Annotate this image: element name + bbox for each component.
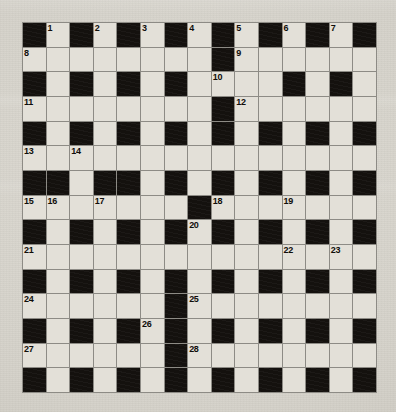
crossword-letter-cell[interactable]: 6 [282,23,306,48]
crossword-letter-cell[interactable] [329,96,353,121]
crossword-letter-cell[interactable] [93,220,117,245]
crossword-letter-cell[interactable] [353,72,377,97]
crossword-letter-cell[interactable]: 28 [188,343,212,368]
crossword-letter-cell[interactable] [329,220,353,245]
crossword-letter-cell[interactable] [306,96,330,121]
crossword-letter-cell[interactable] [188,96,212,121]
crossword-letter-cell[interactable] [46,220,70,245]
crossword-letter-cell[interactable] [258,146,282,171]
crossword-letter-cell[interactable] [329,146,353,171]
crossword-letter-cell[interactable] [188,269,212,294]
crossword-letter-cell[interactable] [282,220,306,245]
crossword-letter-cell[interactable] [93,47,117,72]
crossword-letter-cell[interactable]: 27 [23,343,47,368]
crossword-letter-cell[interactable] [164,96,188,121]
crossword-letter-cell[interactable]: 16 [46,195,70,220]
crossword-letter-cell[interactable] [140,170,164,195]
crossword-letter-cell[interactable]: 8 [23,47,47,72]
crossword-letter-cell[interactable] [117,47,141,72]
crossword-letter-cell[interactable]: 24 [23,294,47,319]
crossword-letter-cell[interactable] [70,244,94,269]
crossword-letter-cell[interactable]: 4 [188,23,212,48]
crossword-letter-cell[interactable] [353,47,377,72]
crossword-letter-cell[interactable] [70,47,94,72]
crossword-letter-cell[interactable] [282,47,306,72]
crossword-letter-cell[interactable] [282,318,306,343]
crossword-letter-cell[interactable] [164,195,188,220]
crossword-letter-cell[interactable] [140,368,164,393]
crossword-letter-cell[interactable] [140,294,164,319]
crossword-letter-cell[interactable] [46,343,70,368]
crossword-letter-cell[interactable]: 18 [211,195,235,220]
crossword-letter-cell[interactable] [258,244,282,269]
crossword-letter-cell[interactable] [235,121,259,146]
crossword-letter-cell[interactable] [93,96,117,121]
crossword-letter-cell[interactable]: 19 [282,195,306,220]
crossword-letter-cell[interactable]: 2 [93,23,117,48]
crossword-letter-cell[interactable] [188,47,212,72]
crossword-letter-cell[interactable] [235,170,259,195]
crossword-letter-cell[interactable] [235,146,259,171]
crossword-letter-cell[interactable]: 20 [188,220,212,245]
crossword-letter-cell[interactable] [258,72,282,97]
crossword-letter-cell[interactable] [235,269,259,294]
crossword-letter-cell[interactable]: 14 [70,146,94,171]
crossword-letter-cell[interactable] [306,72,330,97]
crossword-letter-cell[interactable] [282,170,306,195]
crossword-letter-cell[interactable] [353,294,377,319]
crossword-letter-cell[interactable] [46,318,70,343]
crossword-letter-cell[interactable] [46,294,70,319]
crossword-letter-cell[interactable] [329,318,353,343]
crossword-letter-cell[interactable] [235,318,259,343]
crossword-letter-cell[interactable] [353,96,377,121]
crossword-letter-cell[interactable] [329,343,353,368]
crossword-letter-cell[interactable] [258,343,282,368]
crossword-letter-cell[interactable] [140,146,164,171]
crossword-letter-cell[interactable] [70,195,94,220]
crossword-letter-cell[interactable]: 25 [188,294,212,319]
crossword-letter-cell[interactable] [117,244,141,269]
crossword-letter-cell[interactable] [353,146,377,171]
crossword-letter-cell[interactable]: 17 [93,195,117,220]
crossword-letter-cell[interactable] [188,146,212,171]
crossword-letter-cell[interactable] [46,368,70,393]
crossword-letter-cell[interactable] [140,343,164,368]
crossword-letter-cell[interactable]: 23 [329,244,353,269]
crossword-letter-cell[interactable] [46,47,70,72]
crossword-letter-cell[interactable] [164,244,188,269]
crossword-letter-cell[interactable]: 21 [23,244,47,269]
crossword-letter-cell[interactable] [140,47,164,72]
crossword-letter-cell[interactable] [235,244,259,269]
crossword-letter-cell[interactable] [140,244,164,269]
crossword-letter-cell[interactable] [353,195,377,220]
crossword-letter-cell[interactable] [140,72,164,97]
crossword-letter-cell[interactable] [117,195,141,220]
crossword-letter-cell[interactable] [188,368,212,393]
crossword-letter-cell[interactable] [46,121,70,146]
crossword-letter-cell[interactable] [282,121,306,146]
crossword-letter-cell[interactable] [282,294,306,319]
crossword-letter-cell[interactable] [211,146,235,171]
crossword-letter-cell[interactable] [93,343,117,368]
crossword-grid[interactable]: 1234567891011121314151617181920212223242… [22,22,377,393]
crossword-letter-cell[interactable] [306,47,330,72]
crossword-letter-cell[interactable]: 12 [235,96,259,121]
crossword-letter-cell[interactable] [211,244,235,269]
crossword-letter-cell[interactable] [93,72,117,97]
crossword-letter-cell[interactable] [46,269,70,294]
crossword-letter-cell[interactable] [258,294,282,319]
crossword-letter-cell[interactable] [70,170,94,195]
crossword-letter-cell[interactable] [164,47,188,72]
crossword-letter-cell[interactable] [211,343,235,368]
crossword-letter-cell[interactable] [70,343,94,368]
crossword-letter-cell[interactable] [329,368,353,393]
crossword-letter-cell[interactable] [117,146,141,171]
crossword-letter-cell[interactable]: 1 [46,23,70,48]
crossword-letter-cell[interactable]: 15 [23,195,47,220]
crossword-letter-cell[interactable] [46,96,70,121]
crossword-letter-cell[interactable] [235,343,259,368]
crossword-letter-cell[interactable] [306,146,330,171]
crossword-letter-cell[interactable] [282,96,306,121]
crossword-letter-cell[interactable]: 11 [23,96,47,121]
crossword-letter-cell[interactable] [140,121,164,146]
